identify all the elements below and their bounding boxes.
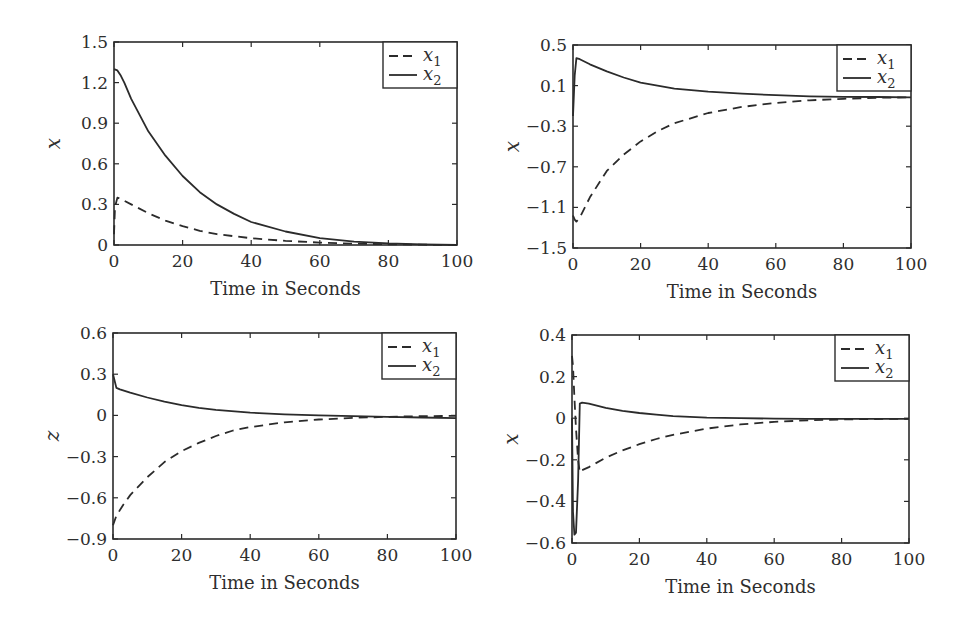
series-x2-line xyxy=(113,374,456,418)
x-tick-label: 100 xyxy=(893,549,925,569)
plot-lines xyxy=(114,69,457,245)
y-tick-label: −0.6 xyxy=(525,533,566,553)
legend: x1x2 xyxy=(837,45,911,91)
y-tick-label: 0 xyxy=(555,408,566,428)
x-axis-label: Time in Seconds xyxy=(210,278,361,299)
x-tick-label: 100 xyxy=(441,251,473,271)
y-tick-label: 0.3 xyxy=(80,364,107,384)
x-tick-label: 100 xyxy=(895,254,927,274)
y-tick-label: −0.9 xyxy=(66,529,107,549)
subplot-top-right: 020406080100−1.5−1.1−0.7−0.30.10.5Time i… xyxy=(500,35,927,302)
y-tick-label: 0 xyxy=(97,235,108,255)
x-tick-label: 80 xyxy=(831,549,853,569)
y-tick-label: 0.6 xyxy=(81,154,108,174)
figure: 02040608010000.30.60.91.21.5Time in Seco… xyxy=(0,0,959,633)
y-tick-label: −1.1 xyxy=(526,197,567,217)
y-tick-label: −1.5 xyxy=(526,238,567,258)
x-tick-label: 60 xyxy=(763,549,785,569)
x-tick-label: 40 xyxy=(696,549,718,569)
x-tick-label: 0 xyxy=(108,545,119,565)
plot-lines xyxy=(572,356,909,535)
x-tick-label: 40 xyxy=(697,254,719,274)
x-axis-label: Time in Seconds xyxy=(667,281,818,302)
x-tick-label: 40 xyxy=(239,545,261,565)
x-tick-label: 80 xyxy=(378,251,400,271)
x-tick-label: 0 xyxy=(568,254,579,274)
y-tick-label: 0.2 xyxy=(539,367,566,387)
y-tick-label: −0.7 xyxy=(526,157,567,177)
y-tick-label: 0.9 xyxy=(81,113,108,133)
x-axis-label: Time in Seconds xyxy=(665,576,816,597)
x-tick-label: 60 xyxy=(309,251,331,271)
x-tick-label: 40 xyxy=(240,251,262,271)
y-tick-label: 1.2 xyxy=(81,73,108,93)
x-tick-label: 20 xyxy=(630,254,652,274)
legend: x1x2 xyxy=(383,42,457,88)
y-tick-label: 1.5 xyxy=(81,32,108,52)
x-tick-label: 80 xyxy=(377,545,399,565)
y-axis-label: x xyxy=(41,138,65,149)
plot-lines xyxy=(113,374,456,525)
x-tick-label: 20 xyxy=(172,251,194,271)
y-tick-label: −0.3 xyxy=(66,447,107,467)
x-tick-label: 20 xyxy=(629,549,651,569)
legend: x1x2 xyxy=(835,335,909,381)
y-tick-label: 0 xyxy=(96,405,107,425)
y-axis-label: x xyxy=(500,141,524,152)
y-tick-label: 0.3 xyxy=(81,194,108,214)
y-tick-label: −0.3 xyxy=(526,116,567,136)
x-tick-label: 20 xyxy=(171,545,193,565)
legend: x1x2 xyxy=(382,333,456,379)
series-x2-line xyxy=(114,69,457,245)
x-tick-label: 80 xyxy=(833,254,855,274)
series-x1-line xyxy=(114,198,457,245)
x-tick-label: 60 xyxy=(765,254,787,274)
y-tick-label: −0.6 xyxy=(66,488,107,508)
y-tick-label: 0.4 xyxy=(539,325,566,345)
y-axis-label: x xyxy=(499,433,523,444)
series-x1-line xyxy=(113,416,456,525)
y-tick-label: 0.6 xyxy=(80,323,107,343)
y-tick-label: −0.2 xyxy=(525,450,566,470)
x-tick-label: 100 xyxy=(440,545,472,565)
y-tick-label: 0.5 xyxy=(540,35,567,55)
subplot-bottom-left: 020406080100−0.9−0.6−0.300.30.6Time in S… xyxy=(40,323,472,593)
subplot-bottom-right: 020406080100−0.6−0.4−0.200.20.4Time in S… xyxy=(499,325,925,597)
y-tick-label: 0.1 xyxy=(540,76,567,96)
y-tick-label: −0.4 xyxy=(525,491,566,511)
series-x1-line xyxy=(573,97,911,221)
x-axis-label: Time in Seconds xyxy=(209,572,360,593)
x-tick-label: 0 xyxy=(567,549,578,569)
y-axis-label: z xyxy=(40,430,64,442)
series-x2-line xyxy=(572,403,909,535)
subplot-top-left: 02040608010000.30.60.91.21.5Time in Seco… xyxy=(41,32,473,299)
x-tick-label: 60 xyxy=(308,545,330,565)
x-tick-label: 0 xyxy=(109,251,120,271)
